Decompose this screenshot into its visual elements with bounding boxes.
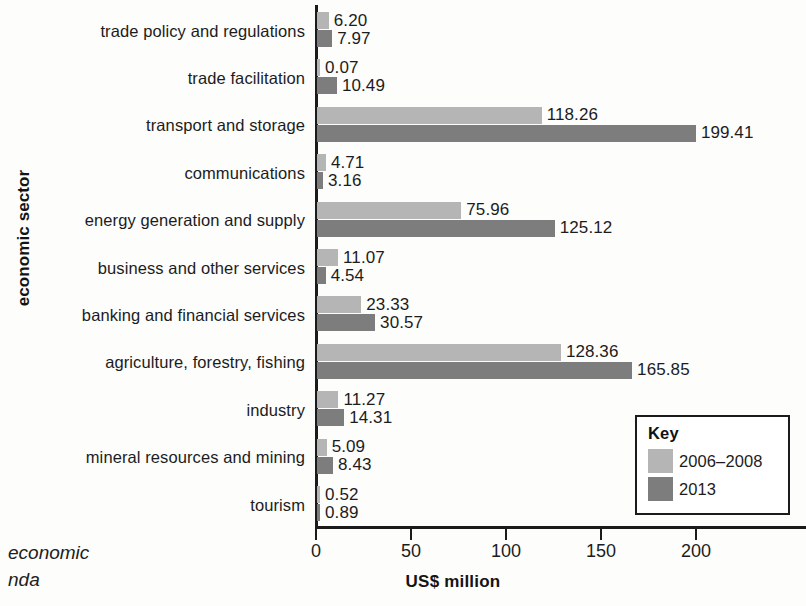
bar-value-label: 7.97 [337, 29, 371, 49]
bar-value-label: 3.16 [328, 171, 362, 191]
bar-2006-2008: 128.36 [317, 344, 561, 361]
bar-value-label: 5.09 [332, 437, 366, 457]
chart-row: business and other services11.074.54 [315, 244, 785, 291]
bar-value-label: 0.07 [325, 58, 359, 78]
legend-label: 2013 [679, 480, 716, 499]
bar-2013: 0.89 [317, 504, 320, 521]
bar-2013: 8.43 [317, 457, 333, 474]
category-label: business and other services [98, 258, 305, 277]
x-axis-tick-label: 100 [491, 541, 521, 562]
bar-2013: 14.31 [317, 409, 344, 426]
bar-value-label: 30.57 [380, 313, 423, 333]
x-axis-tick-label: 0 [311, 541, 321, 562]
category-label: banking and financial services [82, 306, 305, 325]
category-label: agriculture, forestry, fishing [105, 353, 305, 372]
bar-2006-2008: 118.26 [317, 107, 542, 124]
bar-2006-2008: 0.52 [317, 486, 320, 503]
chart-row: trade facilitation0.0710.49 [315, 54, 785, 101]
bar-2013: 165.85 [317, 362, 632, 379]
bar-value-label: 75.96 [466, 200, 509, 220]
legend: Key 2006–2008 2013 [635, 415, 790, 515]
chart-row: energy generation and supply75.96125.12 [315, 197, 785, 244]
bar-2013: 125.12 [317, 220, 555, 237]
bar-value-label: 11.07 [343, 248, 385, 268]
bar-value-label: 125.12 [560, 218, 613, 238]
x-axis-title: US$ million [0, 572, 806, 592]
x-axis-tick-label: 50 [401, 541, 421, 562]
bar-2006-2008: 5.09 [317, 439, 327, 456]
chart-row: transport and storage118.26199.41 [315, 102, 785, 149]
bar-2013: 10.49 [317, 77, 337, 94]
bar-2006-2008: 11.07 [317, 249, 338, 266]
bar-value-label: 128.36 [566, 342, 619, 362]
caption-line-1: economic [8, 540, 89, 567]
bar-value-label: 118.26 [547, 105, 598, 125]
bar-2006-2008: 11.27 [317, 391, 338, 408]
bar-2013: 7.97 [317, 30, 332, 47]
legend-title: Key [648, 424, 788, 443]
legend-item: 2013 [648, 475, 788, 503]
bar-value-label: 4.54 [331, 266, 365, 286]
bar-value-label: 0.89 [325, 503, 359, 523]
caption-line-2: nda [8, 567, 89, 594]
bar-2013: 4.54 [317, 267, 326, 284]
x-axis-tick [410, 529, 412, 540]
legend-swatch-2013 [648, 477, 673, 501]
bar-value-label: 199.41 [701, 123, 754, 143]
bar-2006-2008: 4.71 [317, 154, 326, 171]
bar-value-label: 23.33 [366, 295, 409, 315]
bar-value-label: 165.85 [637, 360, 690, 380]
legend-item: 2006–2008 [648, 447, 788, 475]
bar-2013: 3.16 [317, 172, 323, 189]
bar-2006-2008: 23.33 [317, 296, 361, 313]
category-label: mineral resources and mining [86, 448, 305, 467]
category-label: trade policy and regulations [100, 21, 305, 40]
x-axis-tick [315, 529, 317, 540]
category-label: trade facilitation [188, 69, 305, 88]
x-axis-tick [600, 529, 602, 540]
x-axis-tick-label: 150 [586, 541, 616, 562]
bar-2006-2008: 75.96 [317, 202, 461, 219]
chart-canvas: economic sector trade policy and regulat… [0, 0, 806, 606]
y-axis-title: economic sector [14, 128, 34, 348]
category-label: energy generation and supply [85, 211, 305, 230]
x-axis-tick-label: 200 [681, 541, 711, 562]
bar-value-label: 11.27 [343, 390, 385, 410]
bar-value-label: 10.49 [342, 76, 385, 96]
bar-2006-2008: 0.07 [317, 59, 320, 76]
bar-2013: 199.41 [317, 125, 696, 142]
chart-row: agriculture, forestry, fishing128.36165.… [315, 339, 785, 386]
category-label: communications [184, 163, 305, 182]
chart-row: communications4.713.16 [315, 149, 785, 196]
figure-caption: economic nda [8, 540, 89, 594]
bar-value-label: 0.52 [325, 485, 359, 505]
x-axis-tick [695, 529, 697, 540]
legend-swatch-2006-2008 [648, 449, 673, 473]
chart-row: trade policy and regulations6.207.97 [315, 7, 785, 54]
category-label: tourism [250, 495, 305, 514]
x-axis-title-text: US$ million [406, 572, 501, 592]
bar-2006-2008: 6.20 [317, 12, 329, 29]
bar-value-label: 6.20 [334, 11, 368, 31]
bar-value-label: 14.31 [349, 408, 392, 428]
bar-2013: 30.57 [317, 314, 375, 331]
bar-value-label: 8.43 [338, 455, 372, 475]
chart-row: banking and financial services23.3330.57 [315, 291, 785, 338]
bar-value-label: 4.71 [331, 153, 365, 173]
legend-label: 2006–2008 [679, 452, 763, 471]
category-label: industry [246, 400, 305, 419]
category-label: transport and storage [146, 116, 305, 135]
x-axis-tick [505, 529, 507, 540]
